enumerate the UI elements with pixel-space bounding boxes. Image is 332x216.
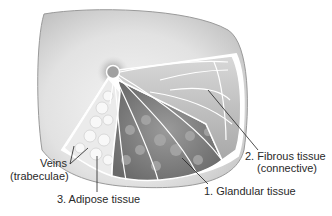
label-fibrous-sub: (connective) [257,162,317,174]
label-fibrous-tissue: 2. Fibrous tissue [245,150,326,162]
label-veins: Veins [40,157,67,169]
label-adipose-tissue: 3. Adipose tissue [57,193,140,205]
nipple [107,66,120,79]
label-glandular-tissue: 1. Glandular tissue [204,185,296,197]
breast-anatomy-illustration [0,0,332,216]
label-veins-sub: (trabeculae) [10,170,69,182]
